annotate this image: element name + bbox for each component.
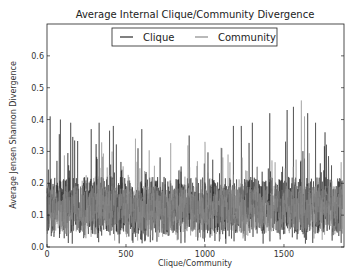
plot-area [47,100,342,243]
y-tick-label: 0.5 [31,84,44,93]
x-axis: 050010001500 [44,244,294,259]
x-tick-label: 1500 [274,250,294,259]
y-tick-label: 0.2 [31,179,44,188]
legend-label-community: Community [218,32,276,43]
x-tick-label: 1000 [195,250,215,259]
chart-title: Average Internal Clique/Community Diverg… [76,9,315,20]
legend: Clique Community [112,28,277,46]
y-tick-label: 0.0 [31,243,44,252]
x-axis-label: Clique/Community [158,259,232,268]
y-tick-label: 0.6 [31,52,44,61]
x-tick-label: 500 [118,250,133,259]
y-axis-label: Average Jensen Shannon Divergence [9,61,18,209]
y-tick-label: 0.3 [31,147,44,156]
line-chart: Average Internal Clique/Community Diverg… [0,0,361,280]
legend-label-clique: Clique [143,32,174,43]
y-tick-label: 0.4 [31,116,44,125]
x-tick-label: 0 [44,250,49,259]
y-tick-label: 0.1 [31,211,44,220]
